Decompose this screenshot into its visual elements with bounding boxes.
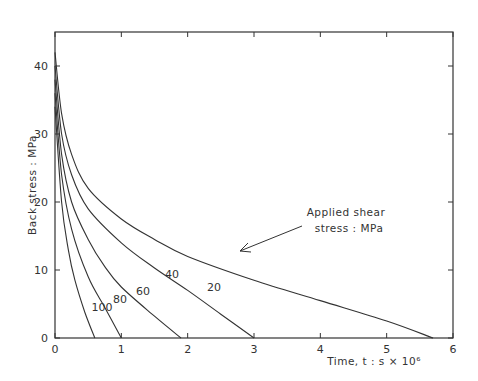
annotation-line-1: Applied shear — [307, 206, 386, 218]
back-stress-chart: 010203040 0123456 20406080100 Back stres… — [0, 0, 478, 381]
x-tick-label: 6 — [450, 343, 457, 356]
curve-label-100: 100 — [92, 301, 113, 314]
x-tick-label: 2 — [184, 343, 191, 356]
curve-label-60: 60 — [136, 285, 150, 298]
curve-label-40: 40 — [165, 268, 179, 281]
curve-20 — [55, 52, 433, 338]
annotation-arrow-icon — [240, 226, 302, 252]
x-tick-label: 4 — [317, 343, 324, 356]
curve-label-80: 80 — [113, 293, 127, 306]
curves — [55, 52, 433, 338]
x-tick-label: 0 — [52, 343, 59, 356]
curve-label-20: 20 — [207, 281, 221, 294]
x-axis-label: Time, t : s × 10⁶ — [326, 355, 421, 367]
curve-40 — [55, 66, 254, 338]
y-tick-label: 10 — [34, 264, 48, 277]
curve-100 — [55, 107, 95, 338]
x-tick-label: 3 — [251, 343, 258, 356]
annotation-line-2: stress : MPa — [315, 222, 384, 234]
x-tick-label: 1 — [118, 343, 125, 356]
y-tick-label: 0 — [41, 332, 48, 345]
y-axis-label: Back stress : MPa — [26, 135, 38, 235]
y-tick-label: 40 — [34, 60, 48, 73]
